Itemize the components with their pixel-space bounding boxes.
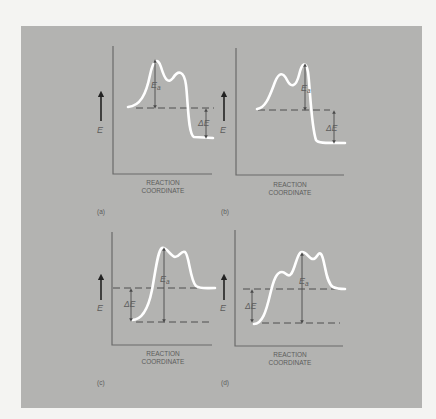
panel-caption: (a)	[97, 208, 105, 216]
x-axis-label: REACTION	[146, 179, 180, 186]
panel-a: E Ea ΔE REACTION COORDINATE (a)	[97, 46, 214, 216]
x-axis-label: REACTION	[273, 351, 307, 358]
delta-e-label: ΔE	[123, 299, 136, 309]
panel-b: E Ea ΔE REACTION COORDINATE (b)	[220, 48, 345, 216]
panel-d: E Ea ΔE REACTION COORDINATE (d)	[220, 230, 345, 387]
x-axis-label: REACTION	[273, 181, 307, 188]
x-axis-label: COORDINATE	[269, 359, 313, 366]
activation-energy-label: Ea	[151, 80, 161, 91]
energy-curve	[254, 252, 345, 324]
activation-energy-label: Ea	[160, 274, 170, 285]
panel-caption: (d)	[221, 379, 229, 387]
x-axis-label: REACTION	[146, 350, 180, 357]
y-axis-label: E	[97, 125, 104, 135]
energy-curve	[132, 248, 215, 320]
y-axis-label: E	[220, 125, 227, 135]
y-axis-label: E	[97, 303, 104, 313]
panel-caption: (b)	[221, 208, 229, 216]
delta-e-label: ΔE	[325, 123, 338, 133]
panel-caption: (c)	[97, 379, 105, 387]
activation-energy-label: Ea	[299, 276, 309, 287]
energy-diagrams: E Ea ΔE REACTION COORDINATE (a) E Ea ΔE …	[0, 0, 436, 419]
y-axis	[113, 46, 212, 174]
x-axis-label: COORDINATE	[269, 189, 313, 196]
x-axis-label: COORDINATE	[142, 187, 186, 194]
delta-e-label: ΔE	[244, 301, 257, 311]
panel-c: E Ea ΔE REACTION COORDINATE (c)	[97, 232, 215, 387]
x-axis-label: COORDINATE	[142, 358, 186, 365]
y-axis	[236, 48, 344, 175]
delta-e-label: ΔE	[197, 118, 210, 128]
y-axis	[235, 230, 343, 346]
y-axis-label: E	[220, 303, 227, 313]
